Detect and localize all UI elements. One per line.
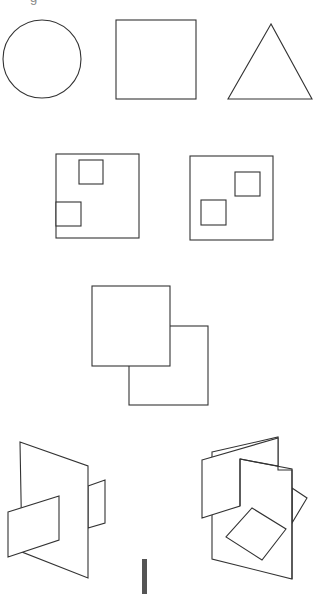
inner-square-top (79, 160, 103, 184)
inner-square-left (56, 202, 81, 226)
shapes-figure (0, 0, 313, 594)
square-frame-left (56, 154, 139, 238)
right-wedge-plane (292, 488, 307, 523)
intersecting-planes-left (8, 442, 105, 578)
triangle-shape (228, 24, 312, 99)
inner-square-bottom-left (201, 200, 226, 225)
overlapping-squares (92, 286, 208, 405)
inner-square-top-right (235, 172, 260, 196)
back-small-plane (88, 480, 105, 528)
circle-shape (3, 20, 81, 98)
scroll-indicator-bar (142, 559, 147, 594)
square-frame-right (190, 156, 273, 240)
square-shape (116, 20, 196, 99)
front-square (92, 286, 170, 366)
intersecting-planes-right (202, 437, 307, 579)
